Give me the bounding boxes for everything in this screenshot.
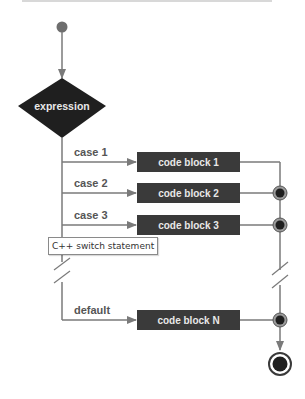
start-node bbox=[57, 22, 68, 33]
case-row: case 1code block 1 bbox=[62, 146, 280, 172]
case-label: case 3 bbox=[74, 209, 108, 221]
case-label: case 1 bbox=[74, 146, 108, 158]
switch-flowchart: expression case 1code block 1case 2code … bbox=[0, 0, 305, 399]
case-label: default bbox=[74, 304, 110, 316]
decision-label: expression bbox=[34, 100, 89, 112]
code-block-label: code block N bbox=[157, 315, 219, 326]
junction-node bbox=[273, 218, 287, 232]
case-row: case 2code block 2 bbox=[62, 177, 287, 203]
default-row: defaultcode block N bbox=[62, 304, 287, 330]
code-block-label: code block 1 bbox=[158, 157, 219, 168]
junction-node bbox=[273, 313, 287, 327]
tooltip: C++ switch statement bbox=[48, 237, 158, 255]
case-row: case 3code block 3 bbox=[62, 209, 287, 235]
code-block-label: code block 3 bbox=[158, 220, 219, 231]
case-label: case 2 bbox=[74, 177, 108, 189]
junction-node bbox=[273, 186, 287, 200]
code-block-label: code block 2 bbox=[158, 188, 219, 199]
decision-node: expression bbox=[18, 78, 106, 138]
end-node bbox=[269, 353, 291, 375]
